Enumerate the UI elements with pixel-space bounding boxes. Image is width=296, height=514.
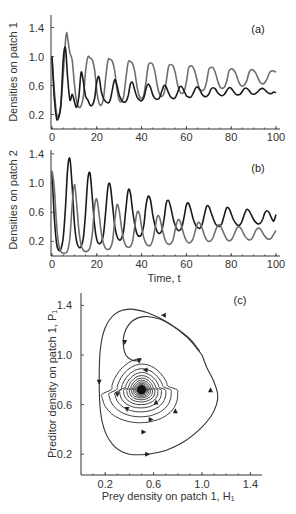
arrow-up-icon [173, 408, 178, 413]
x-tick-label: 0.2 [98, 478, 113, 490]
panel-b-label: (b) [251, 162, 264, 174]
y-tick-label: 0.2 [29, 235, 44, 247]
x-tick-label: 80 [225, 131, 237, 143]
panel-a-series [52, 33, 276, 121]
panel-b-time-series-patch-2: 020406080100 0.20.61.01.4 (b) Densities … [7, 148, 285, 284]
panel-c-phase-plane: 0.20.61.01.4 0.20.61.01.4 (c) Preditor d… [46, 293, 262, 502]
panel-a-label: (a) [251, 23, 264, 35]
x-tick-label: 100 [267, 131, 285, 143]
equilibrium-point [137, 385, 146, 394]
y-tick-label: 1.4 [57, 299, 72, 311]
y-tick-label: 0.2 [29, 109, 44, 121]
panel-c-x-axis-title: Prey density on patch 1, H₁ [102, 490, 235, 502]
x-tick-label: 20 [91, 131, 103, 143]
y-tick-label: 1.0 [29, 51, 44, 63]
arrow-left-icon [161, 313, 166, 318]
x-tick-label: 20 [91, 258, 103, 270]
y-tick-label: 0.2 [57, 448, 72, 460]
figure: 020406080100 0.20.61.01.4 (a) Densities … [0, 0, 296, 514]
x-tick-label: 0.6 [146, 478, 161, 490]
x-tick-label: 60 [180, 131, 192, 143]
arrow-right-icon [141, 429, 146, 434]
series-line-prey-h1 [52, 33, 276, 117]
y-tick-label: 0.6 [29, 80, 44, 92]
panel-b-y-axis-title: Densities on patch 2 [7, 150, 19, 250]
trajectory-outer-loop [99, 309, 218, 455]
x-tick-label: 80 [225, 258, 237, 270]
arrow-left-icon [143, 367, 148, 372]
y-tick-label: 1.0 [29, 177, 44, 189]
x-tick-label: 1.4 [243, 478, 258, 490]
y-tick-label: 1.0 [57, 349, 72, 361]
panel-a-y-axis-title: Densities on patch 1 [7, 22, 19, 122]
y-tick-label: 1.4 [29, 148, 44, 160]
x-tick-label: 0 [49, 131, 55, 143]
panel-b-y-ticks: 0.20.61.01.4 [29, 148, 54, 248]
arrow-right-icon [145, 452, 150, 457]
y-tick-label: 0.6 [29, 206, 44, 218]
x-tick-label: 0 [49, 258, 55, 270]
panel-b-x-axis-title-text: Time, t [147, 272, 180, 284]
panel-b-series [52, 158, 276, 253]
x-tick-label: 40 [135, 258, 147, 270]
x-tick-label: 40 [135, 131, 147, 143]
arrow-up-icon [208, 387, 213, 392]
y-tick-label: 0.6 [57, 399, 72, 411]
panel-c-trajectories [99, 309, 218, 455]
panel-c-label: (c) [234, 294, 247, 306]
panel-a-y-ticks: 0.20.61.01.4 [29, 22, 54, 121]
series-line-predator-p1 [52, 47, 276, 120]
arrow-down-icon [97, 380, 102, 385]
x-tick-label: 1.0 [194, 478, 209, 490]
y-tick-label: 1.4 [29, 22, 44, 34]
x-tick-label: 60 [180, 258, 192, 270]
panel-c-y-ticks: 0.20.61.01.4 [57, 299, 84, 460]
panel-c-y-axis-title: Preditor density on patch 1, P₁ [46, 310, 58, 458]
panel-b-x-axis-title: Time, t [147, 272, 180, 284]
x-tick-label: 100 [267, 258, 285, 270]
panel-a-time-series-patch-1: 020406080100 0.20.61.01.4 (a) Densities … [7, 15, 285, 143]
